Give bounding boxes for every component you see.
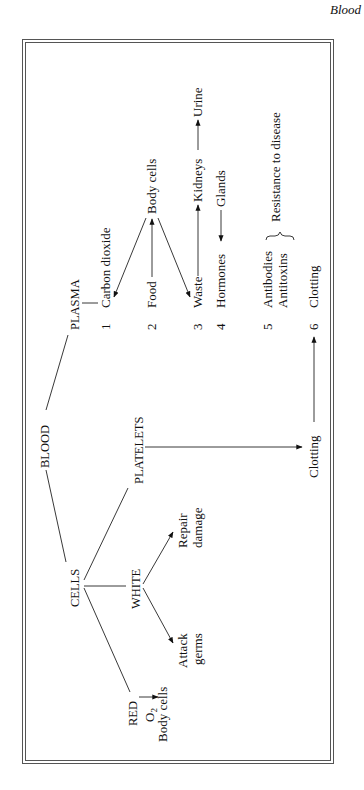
node-plasma: PLASMA (68, 279, 82, 330)
blood-composition-diagram: BLOOD PLASMA 1 2 3 4 5 6 Carbon dioxide … (0, 0, 364, 790)
item-number-2: 2 (144, 324, 159, 331)
node-red: RED (126, 701, 140, 726)
item-clotting: Clotting (306, 265, 321, 308)
node-cells: CELLS (68, 569, 82, 607)
edge-cells-red (84, 588, 130, 692)
node-white: WHITE (129, 568, 143, 609)
item-number-3: 3 (190, 324, 205, 331)
edge-platelets-cells (84, 488, 128, 580)
item-number-1: 1 (98, 324, 113, 331)
node-body-cells: Body cells (144, 159, 159, 214)
arrow-body-cells-to-waste (158, 218, 190, 297)
edge-blood-plasma (46, 335, 68, 410)
edge-blood-cells (46, 470, 66, 562)
item-hormones: Hormones (213, 254, 228, 308)
node-damage: damage (190, 507, 205, 548)
item-carbon-dioxide: Carbon dioxide (98, 227, 113, 308)
node-kidneys: Kidneys (190, 159, 205, 202)
item-antitoxins: Antitoxins (275, 253, 290, 308)
item-food: Food (144, 281, 159, 308)
node-attack: Attack (175, 633, 190, 668)
brace-resistance (266, 232, 294, 240)
arrow-white-to-attack (143, 588, 173, 643)
item-number-5: 5 (260, 324, 275, 331)
arrow-body-cells-to-co2 (114, 218, 146, 297)
node-germs: germs (190, 633, 205, 665)
node-blood: BLOOD (38, 425, 52, 468)
item-number-4: 4 (213, 323, 228, 330)
item-number-6: 6 (306, 323, 321, 330)
node-platelets: PLATELETS (132, 417, 146, 484)
node-glands: Glands (213, 170, 228, 207)
item-waste: Waste (190, 276, 205, 308)
node-platelets-clotting: Clotting (306, 435, 321, 478)
node-resistance-to-disease: Resistance to disease (268, 112, 283, 222)
node-repair: Repair (175, 513, 190, 548)
node-red-body-cells: Body cells (155, 687, 170, 742)
item-antibodies: Antibodies (260, 251, 275, 308)
node-urine: Urine (190, 87, 205, 117)
arrow-white-to-repair (143, 532, 173, 584)
